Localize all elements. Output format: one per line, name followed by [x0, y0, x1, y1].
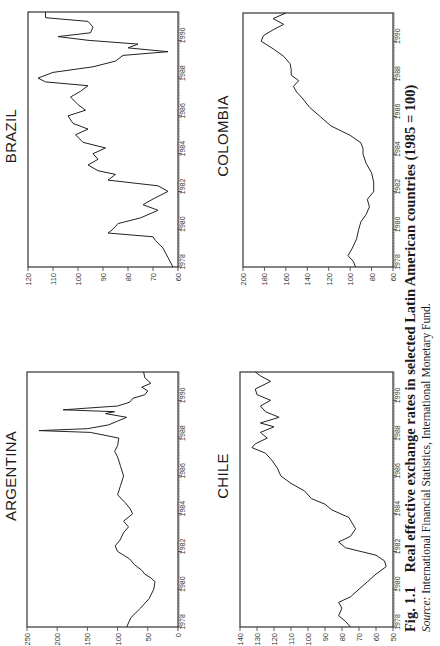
x-tick-label: 1986	[394, 104, 401, 120]
y-tick-label: 180	[260, 273, 269, 286]
data-line	[261, 13, 374, 267]
plot-frame	[243, 13, 393, 267]
panel-colombia: COLOMBIA 1978198019821984198619881990608…	[0, 0, 400, 646]
y-tick-label: 80	[368, 273, 377, 281]
y-tick-label: 160	[282, 273, 291, 286]
y-tick-label: 140	[303, 273, 312, 286]
x-tick-label: 1988	[394, 66, 401, 82]
figure-title: Real effective exchange rates in selecte…	[402, 85, 418, 573]
x-tick-label: 1978	[394, 254, 401, 270]
source-label: Source:	[420, 597, 432, 632]
chart-colombia: 1978198019821984198619881990608010012014…	[0, 0, 400, 646]
y-tick-label: 60	[389, 273, 398, 281]
x-tick-label: 1984	[394, 141, 401, 157]
y-tick-label: 120	[325, 273, 334, 286]
figure-label: Fig. 1.1	[402, 586, 418, 632]
x-tick-label: 1982	[394, 179, 401, 195]
x-tick-label: 1980	[394, 216, 401, 232]
figure-caption: Fig. 1.1Real effective exchange rates in…	[402, 12, 432, 632]
figure-page: ARGENTINA 197819801982198419861988199005…	[0, 0, 440, 646]
x-tick-label: 1990	[394, 28, 401, 44]
y-tick-label: 100	[346, 273, 355, 286]
caption-title-line: Fig. 1.1Real effective exchange rates in…	[402, 12, 419, 632]
y-tick-label: 200	[239, 273, 248, 286]
caption-source-line: Source: International Financial Statisti…	[420, 12, 432, 632]
source-text: International Financial Statistics, Inte…	[420, 303, 432, 596]
